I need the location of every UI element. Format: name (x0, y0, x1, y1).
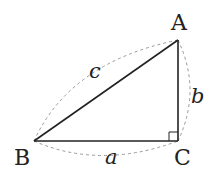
side-c-hypotenuse (34, 40, 178, 141)
side-label-a: a (105, 145, 118, 169)
vertex-label-b: B (14, 145, 30, 170)
right-triangle-diagram: A B C c b a (0, 0, 214, 174)
side-label-b: b (191, 84, 204, 108)
vertex-label-c: C (174, 145, 191, 170)
arc-side-b (178, 40, 190, 141)
right-angle-marker (169, 132, 178, 141)
vertex-label-a: A (170, 10, 188, 35)
side-label-c: c (89, 59, 101, 83)
